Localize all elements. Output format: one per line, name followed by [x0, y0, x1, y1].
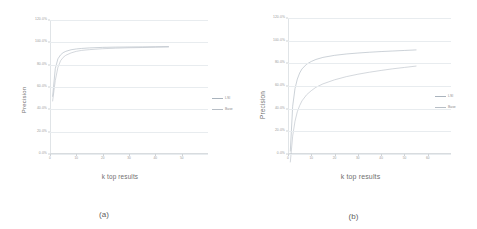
y-gridline	[50, 42, 208, 43]
y-gridline	[288, 41, 451, 42]
x-tick-label: 40	[379, 157, 383, 160]
y-tick-mark	[48, 20, 50, 21]
y-tick-label: 60.0%	[275, 84, 285, 87]
y-gridline	[288, 18, 451, 19]
y-tick-mark	[48, 87, 50, 88]
legend-swatch-base	[212, 109, 223, 110]
plot-inner-b: 0.0%20.0%40.0%60.0%80.0%100.0%120.0%0102…	[288, 18, 451, 154]
y-tick-label: 40.0%	[275, 107, 285, 110]
y-gridline	[50, 132, 208, 133]
x-tick-label: 30	[127, 157, 131, 160]
y-gridline	[50, 65, 208, 66]
y-tick-label: 100.0%	[35, 41, 47, 44]
legend-label: LSI	[225, 96, 230, 100]
panel-caption-b: (b)	[240, 212, 477, 221]
x-tick-label: 20	[333, 157, 337, 160]
y-tick-label: 20.0%	[275, 130, 285, 133]
plot-area-b: Precision 0.0%20.0%40.0%60.0%80.0%100.0%…	[258, 10, 463, 182]
series-line	[53, 47, 169, 101]
y-tick-mark	[48, 42, 50, 43]
y-gridline	[288, 63, 451, 64]
y-tick-mark	[48, 109, 50, 110]
legend-item[interactable]: Base	[212, 107, 233, 111]
y-tick-mark	[286, 108, 288, 109]
x-tick-label: 10	[310, 157, 314, 160]
panel-caption-a: (a)	[0, 210, 240, 219]
legend-b: LSI Base	[435, 94, 456, 116]
x-tick-label: 50	[403, 157, 407, 160]
series-line	[290, 50, 416, 151]
y-tick-label: 80.0%	[275, 62, 285, 65]
y-tick-mark	[48, 64, 50, 65]
legend-item[interactable]: LSI	[435, 94, 456, 98]
y-tick-label: 120.0%	[273, 16, 285, 19]
y-gridline	[50, 87, 208, 88]
x-axis-title-a: k top results	[20, 173, 220, 180]
series-line	[53, 47, 169, 97]
x-tick-label: 30	[356, 157, 360, 160]
series-line	[290, 66, 416, 162]
y-tick-label: 0.0%	[39, 152, 47, 155]
y-gridline	[50, 109, 208, 110]
y-gridline	[288, 154, 451, 155]
x-tick-label: 0	[49, 157, 51, 160]
y-tick-label: 60.0%	[37, 85, 47, 88]
y-tick-mark	[286, 86, 288, 87]
y-tick-label: 120.0%	[35, 18, 47, 21]
x-tick-label: 60	[426, 157, 430, 160]
x-tick-label: 50	[180, 157, 184, 160]
precision-at-k-figure: Precision 0.0%20.0%40.0%60.0%80.0%100.0%…	[0, 0, 477, 229]
x-tick-label: 0	[287, 157, 289, 160]
y-tick-label: 80.0%	[37, 63, 47, 66]
legend-a: LSI Base	[212, 96, 233, 118]
y-axis-title-a: Precision	[21, 87, 27, 113]
y-tick-label: 0.0%	[277, 152, 285, 155]
y-tick-label: 20.0%	[37, 130, 47, 133]
legend-label: LSI	[448, 94, 453, 98]
y-tick-mark	[286, 131, 288, 132]
x-tick-label: 10	[75, 157, 79, 160]
y-tick-label: 40.0%	[37, 108, 47, 111]
y-gridline	[50, 20, 208, 21]
x-tick-label: 20	[101, 157, 105, 160]
legend-label: Base	[225, 107, 233, 111]
legend-swatch-lsi	[435, 96, 446, 97]
y-tick-mark	[48, 131, 50, 132]
legend-item[interactable]: Base	[435, 105, 456, 109]
y-tick-label: 100.0%	[273, 39, 285, 42]
y-tick-mark	[286, 63, 288, 64]
legend-swatch-base	[435, 107, 446, 108]
legend-label: Base	[448, 105, 456, 109]
x-tick-label: 40	[154, 157, 158, 160]
y-tick-mark	[286, 40, 288, 41]
plot-inner-a: 0.0%20.0%40.0%60.0%80.0%100.0%120.0%0102…	[50, 20, 208, 154]
y-tick-mark	[286, 18, 288, 19]
y-gridline	[288, 86, 451, 87]
legend-item[interactable]: LSI	[212, 96, 233, 100]
legend-swatch-lsi	[212, 98, 223, 99]
chart-panel-b: Precision 0.0%20.0%40.0%60.0%80.0%100.0%…	[240, 0, 477, 229]
x-axis-title-b: k top results	[258, 173, 463, 180]
y-axis-title-b: Precision	[259, 91, 266, 119]
chart-panel-a: Precision 0.0%20.0%40.0%60.0%80.0%100.0%…	[0, 0, 240, 229]
y-gridline	[288, 109, 451, 110]
y-gridline	[288, 131, 451, 132]
plot-area-a: Precision 0.0%20.0%40.0%60.0%80.0%100.0%…	[20, 12, 220, 182]
